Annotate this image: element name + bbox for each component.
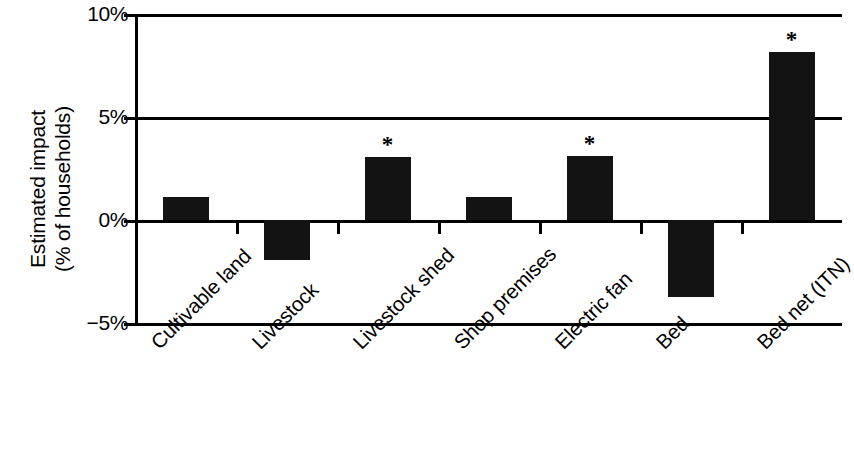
gridline-10% <box>135 14 842 17</box>
gridline-minus5% <box>135 323 842 326</box>
x-tick-mark-5 <box>640 220 643 234</box>
bar-bed-net-itn <box>769 52 815 220</box>
y-tick-mark-0 <box>124 14 135 17</box>
bar-electric-fan <box>567 156 613 220</box>
significance-star-2: * <box>382 133 394 156</box>
y-tick-mark-1 <box>124 117 135 120</box>
bar-livestock <box>264 220 310 260</box>
bar-cultivable-land <box>163 197 209 220</box>
gridline-0% <box>135 220 842 223</box>
bar-livestock-shed <box>365 157 411 220</box>
y-axis-line <box>135 14 138 323</box>
x-tick-mark-4 <box>539 220 542 234</box>
x-tick-mark-1 <box>236 220 239 234</box>
significance-star-4: * <box>584 132 596 155</box>
y-tick-label-3: −5% <box>28 311 128 335</box>
gridline-5% <box>135 117 842 120</box>
x-tick-mark-3 <box>438 220 441 234</box>
significance-star-6: * <box>786 28 798 51</box>
bar-shop-premises <box>466 197 512 220</box>
y-tick-label-2: 0% <box>28 208 128 232</box>
y-tick-mark-3 <box>124 323 135 326</box>
y-tick-mark-2 <box>124 220 135 223</box>
plot-area: *** <box>135 14 842 323</box>
y-tick-label-0: 10% <box>28 2 128 26</box>
x-tick-mark-2 <box>337 220 340 234</box>
y-tick-label-1: 5% <box>28 105 128 129</box>
x-tick-mark-6 <box>741 220 744 234</box>
y-axis-tick-labels: 10%5%0%−5% <box>18 0 128 464</box>
bar-bed <box>668 220 714 297</box>
